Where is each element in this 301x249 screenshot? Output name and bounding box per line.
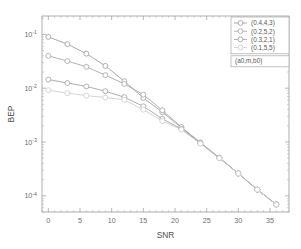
legend-marker-4 (238, 45, 243, 50)
data-point (103, 89, 108, 94)
legend[interactable]: (0.4,4,3)(0.2,5,2)(0.3,2,1)(0.1,5,5) (231, 17, 289, 54)
x-tick-label: 5 (78, 216, 82, 225)
legend-marker-3 (238, 37, 243, 42)
x-tick-label: 30 (234, 216, 242, 225)
data-point (198, 141, 203, 146)
data-point (217, 156, 222, 161)
y-axis-title: BEP (6, 105, 16, 122)
data-point (65, 42, 70, 47)
data-point (141, 107, 146, 112)
x-axis-title: SNR (157, 230, 175, 240)
data-point (103, 73, 108, 78)
legend-annotation-box: (a0,m,b0) (231, 56, 289, 67)
data-point (122, 97, 127, 102)
data-point (255, 187, 260, 192)
y-tick-label: 10-4 (24, 191, 37, 201)
data-point (274, 202, 279, 207)
data-point (46, 88, 51, 93)
annotation-label: (a0,m,b0) (235, 57, 262, 65)
data-point (141, 92, 146, 97)
data-point (46, 34, 51, 39)
data-point (84, 64, 89, 69)
data-point (103, 63, 108, 68)
x-tick-label: 15 (139, 216, 147, 225)
data-point (160, 119, 165, 124)
x-tick-label: 35 (266, 216, 274, 225)
data-point (84, 84, 89, 89)
bep-vs-snr-chart: 0510152025303510-110-210-310-4SNRBEP(0.4… (0, 0, 301, 249)
data-point (103, 95, 108, 100)
data-point (84, 93, 89, 98)
legend-label-4: (0.1,5,5) (251, 44, 275, 52)
x-tick-label: 25 (203, 216, 211, 225)
legend-label-3: (0.3,2,1) (251, 36, 275, 44)
data-point (46, 53, 51, 58)
legend-label-1: (0.4,4,3) (251, 19, 275, 27)
y-tick-label: 10-2 (24, 83, 37, 93)
data-point (46, 77, 51, 82)
data-point (65, 81, 70, 86)
legend-marker-1 (238, 21, 243, 26)
y-tick-label: 10-3 (24, 137, 37, 147)
x-tick-label: 20 (171, 216, 179, 225)
x-tick-label: 10 (108, 216, 116, 225)
data-point (160, 108, 165, 113)
legend-marker-2 (238, 29, 243, 34)
data-point (179, 127, 184, 132)
data-point (65, 91, 70, 96)
x-tick-label: 0 (46, 216, 50, 225)
y-tick-label: 10-1 (24, 29, 37, 39)
data-point (122, 81, 127, 86)
legend-label-2: (0.2,5,2) (251, 28, 275, 36)
data-point (84, 51, 89, 56)
data-point (65, 59, 70, 64)
data-point (236, 171, 241, 176)
figure-canvas: 0510152025303510-110-210-310-4SNRBEP(0.4… (0, 0, 301, 249)
